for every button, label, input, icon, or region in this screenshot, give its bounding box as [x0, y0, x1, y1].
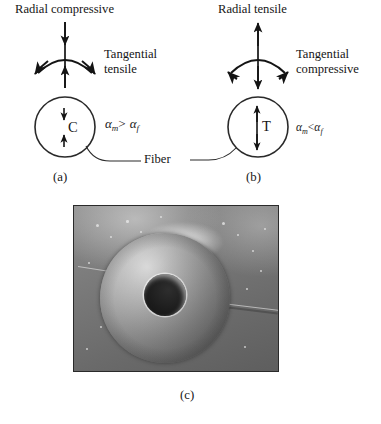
panel-a-fiber-leader-line: [86, 146, 141, 161]
panel-c-micrograph: [73, 205, 279, 372]
panel-a-operator: >: [118, 116, 125, 131]
panel-b-caption: (b): [246, 170, 261, 184]
panel-a-condition: αm> αf: [105, 114, 139, 133]
panel-b-tangential-label-line1: Tangential: [296, 47, 349, 61]
panel-b-fiber-leader-line: [190, 148, 236, 160]
panel-a-alpha-fiber: α: [130, 116, 137, 131]
panel-b-radial-label: Radial tensile: [218, 2, 287, 16]
panel-b-alpha-fiber-sub: f: [320, 127, 322, 136]
panel-b-tangential-label-line2: compressive: [296, 62, 359, 76]
panel-a-fiber-label: Fiber: [144, 152, 171, 166]
micrograph-central-hole: [144, 274, 186, 316]
panel-c-caption: (c): [180, 388, 194, 402]
panel-b-fiber-circle: [228, 97, 288, 157]
panel-a-alpha-fiber-sub: f: [137, 123, 140, 133]
panel-a-core-label: C: [68, 119, 78, 135]
panel-a-alpha-matrix: α: [105, 116, 112, 131]
composite-residual-stress-figure: Radial compressive Tangential tensile: [0, 0, 381, 424]
panel-a-caption: (a): [53, 170, 67, 184]
panel-b-condition: αm<αf: [296, 117, 323, 136]
panel-b-core-label: T: [262, 118, 271, 134]
panel-a-fiber-circle: [35, 97, 95, 157]
